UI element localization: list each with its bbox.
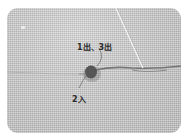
- thread-line: [95, 66, 181, 70]
- embroidery-photo: 1出、3出 2入: [7, 8, 181, 133]
- label-out-points: 1出、3出: [77, 41, 112, 52]
- needle: [116, 8, 143, 68]
- label-in-point: 2入: [72, 93, 86, 104]
- leader-line-in: [79, 74, 87, 88]
- stitch-illustration: [7, 8, 181, 133]
- thread-shadow: [132, 70, 167, 72]
- fabric-crease: [7, 72, 82, 74]
- needle-edge: [117, 8, 144, 68]
